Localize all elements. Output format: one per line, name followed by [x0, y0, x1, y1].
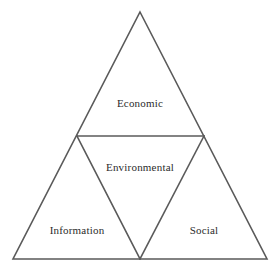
- midline-right-diagonal: [140, 136, 204, 259]
- triangle-diagram: Economic Environmental Information Socia…: [0, 0, 280, 272]
- region-label-social: Social: [190, 224, 219, 236]
- region-label-economic: Economic: [117, 97, 163, 109]
- region-label-environmental: Environmental: [106, 161, 174, 173]
- triangle-diagram-canvas: Economic Environmental Information Socia…: [0, 0, 280, 272]
- midline-left-diagonal: [77, 136, 140, 259]
- region-label-information: Information: [50, 224, 105, 236]
